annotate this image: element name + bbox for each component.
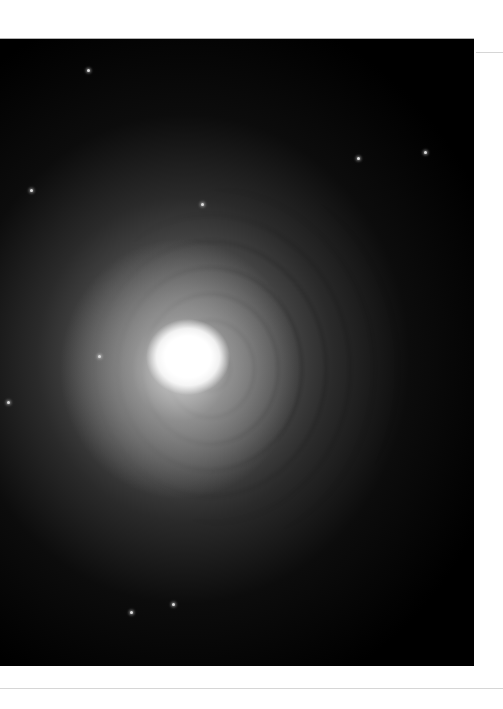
- star: [98, 355, 101, 358]
- star: [7, 401, 10, 404]
- galaxy-image: [0, 38, 474, 666]
- star: [201, 203, 204, 206]
- star: [130, 611, 133, 614]
- star: [424, 151, 427, 154]
- divider-right: [476, 52, 503, 53]
- star: [30, 189, 33, 192]
- divider-bottom: [0, 688, 503, 689]
- galaxy-core: [0, 39, 474, 666]
- star: [357, 157, 360, 160]
- star: [87, 69, 90, 72]
- star: [172, 603, 175, 606]
